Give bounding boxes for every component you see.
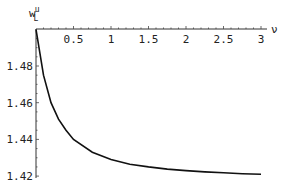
tick-labels: 0.511.522.531.481.461.441.42	[7, 33, 265, 183]
x-tick-label: 2.5	[214, 33, 234, 46]
line-chart: 0.511.522.531.481.461.441.42 ν wuL	[0, 0, 290, 192]
y-axis-label: wuL	[29, 5, 40, 23]
y-tick-label: 1.48	[7, 60, 34, 73]
y-tick-label: 1.42	[7, 170, 34, 183]
data-curve	[36, 29, 261, 174]
x-axis-label: ν	[271, 23, 278, 36]
y-tick-label: 1.44	[7, 133, 34, 146]
y-tick-label: 1.46	[7, 97, 34, 110]
x-tick-label: 1.5	[139, 33, 159, 46]
x-tick-label: 2	[183, 33, 190, 46]
axes	[36, 29, 267, 178]
x-tick-label: 0.5	[64, 33, 84, 46]
x-tick-label: 3	[258, 33, 265, 46]
tick-marks	[36, 26, 261, 176]
x-tick-label: 1	[108, 33, 115, 46]
